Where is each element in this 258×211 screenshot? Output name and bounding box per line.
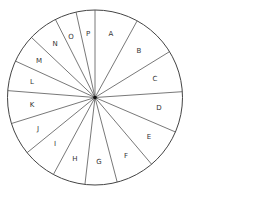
- segment-label-n: N: [52, 40, 57, 48]
- segment-label-h: H: [72, 155, 77, 163]
- segment-label-l: L: [30, 78, 34, 86]
- segmented-wheel-diagram: ABCDEFGHIJKLMNOP: [0, 0, 258, 211]
- segment-label-k: K: [30, 101, 35, 109]
- segment-label-p: P: [86, 30, 90, 38]
- segment-label-d: D: [156, 104, 161, 112]
- segment-label-g: G: [96, 158, 101, 166]
- spoke-line: [85, 98, 95, 185]
- segment-label-o: O: [68, 33, 74, 41]
- spoke-line: [31, 37, 95, 97]
- segment-label-i: I: [54, 140, 56, 148]
- segment-label-a: A: [109, 30, 114, 38]
- spoke-line: [11, 98, 95, 124]
- segment-label-m: M: [36, 57, 42, 65]
- segment-label-c: C: [153, 75, 158, 83]
- spoke-line: [76, 12, 95, 97]
- segment-label-b: B: [137, 47, 142, 55]
- spoke-line: [95, 98, 175, 132]
- segment-label-j: J: [36, 125, 39, 133]
- segment-label-e: E: [147, 133, 151, 141]
- segment-label-f: F: [124, 152, 128, 160]
- spoke-line: [95, 21, 137, 98]
- spoke-line: [53, 98, 95, 175]
- spoke-line: [95, 52, 170, 98]
- center-hub: [93, 96, 97, 100]
- spoke-line: [95, 92, 182, 98]
